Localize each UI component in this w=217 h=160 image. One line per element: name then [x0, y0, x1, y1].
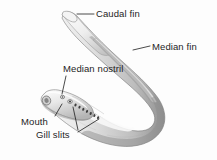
label-gill-slits: Gill slits [36, 130, 70, 140]
body-outline [43, 12, 165, 146]
label-caudal-fin: Caudal fin [96, 9, 140, 19]
median-nostril-dot [62, 96, 64, 98]
label-median-fin: Median fin [152, 42, 197, 52]
lamprey-figure: Caudal fin Median fin Median nostril Mou… [0, 0, 217, 160]
lamprey-body [41, 11, 165, 146]
label-median-nostril: Median nostril [63, 64, 124, 74]
leader-median-fin [133, 46, 150, 50]
label-mouth: Mouth [21, 117, 48, 127]
lamprey-illustration [0, 0, 217, 160]
head [41, 90, 93, 120]
eye-pupil [69, 101, 71, 103]
